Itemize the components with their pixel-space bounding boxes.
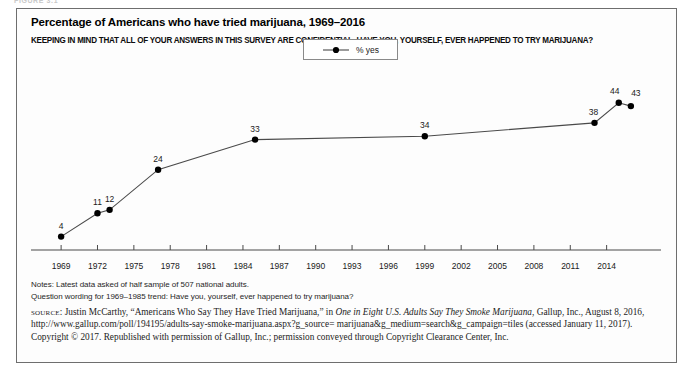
data-point-label: 44: [610, 86, 619, 96]
note-line: Notes: Latest data asked of half sample …: [31, 279, 661, 291]
data-point-marker: [628, 103, 634, 109]
chart-notes: Notes: Latest data asked of half sample …: [31, 279, 661, 302]
x-axis-tick-label: 1972: [88, 261, 107, 271]
x-axis-tick-label: 1999: [415, 261, 434, 271]
legend-line-marker-icon: [322, 45, 350, 55]
source-text-part1: : Justin McCarthy, “Americans Who Say Th…: [60, 307, 336, 317]
data-point-marker: [616, 100, 622, 106]
x-axis-tick-label: 2002: [452, 261, 471, 271]
data-point-marker: [58, 233, 64, 239]
x-axis-tick-label: 1987: [270, 261, 289, 271]
data-point-marker: [155, 166, 161, 172]
x-axis-tick-label: 1969: [52, 261, 71, 271]
series-line: [61, 103, 631, 237]
source-citation: source: Justin McCarthy, “Americans Who …: [31, 306, 659, 343]
line-chart-svg: [31, 64, 661, 261]
x-axis-tick-label: 1984: [233, 261, 252, 271]
data-point-marker: [106, 207, 112, 213]
x-axis-tick-labels: 1969197219751978198119841987199019931996…: [31, 261, 661, 275]
x-axis: [31, 245, 661, 250]
x-axis-tick-label: 1990: [306, 261, 325, 271]
data-point-label: 38: [589, 107, 598, 117]
data-point-label: 33: [250, 124, 259, 134]
legend-label: % yes: [356, 45, 379, 55]
chart-plot-area: 41112243334384443: [31, 64, 661, 261]
data-point-marker: [252, 136, 258, 142]
data-point-marker: [591, 120, 597, 126]
x-axis-ticks: [61, 245, 607, 250]
note-line: Question wording for 1969–1985 trend: Ha…: [31, 291, 661, 303]
data-point-label: 4: [59, 221, 64, 231]
x-axis-tick-label: 1981: [197, 261, 216, 271]
series-markers: [58, 100, 634, 240]
data-point-marker: [94, 210, 100, 216]
x-axis-tick-label: 2011: [561, 261, 579, 271]
x-axis-tick-label: 1975: [124, 261, 143, 271]
data-point-label: 43: [631, 88, 640, 98]
data-point-label: 11: [93, 197, 102, 207]
data-point-label: 24: [153, 154, 162, 164]
x-axis-tick-label: 2014: [597, 261, 616, 271]
x-axis-tick-label: 2008: [524, 261, 543, 271]
figure-tag: FIGURE 3.1: [14, 0, 58, 4]
figure-panel: Percentage of Americans who have tried m…: [16, 8, 677, 363]
x-axis-tick-label: 1996: [379, 261, 398, 271]
x-axis-tick-label: 1978: [161, 261, 180, 271]
x-axis-tick-label: 1993: [343, 261, 362, 271]
source-italic-title: One in Eight U.S. Adults Say They Smoke …: [335, 307, 532, 317]
source-label: source: [31, 306, 60, 317]
data-point-marker: [422, 133, 428, 139]
data-point-label: 12: [105, 194, 114, 204]
data-point-label: 34: [420, 120, 429, 130]
chart-legend: % yes: [303, 39, 398, 60]
page-title: Percentage of Americans who have tried m…: [31, 16, 365, 28]
series-polyline: [61, 103, 631, 237]
x-axis-tick-label: 2005: [488, 261, 507, 271]
